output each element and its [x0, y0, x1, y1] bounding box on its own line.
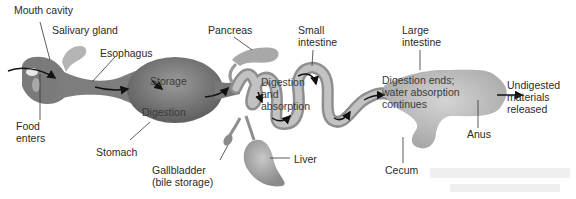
digestive-tract-diagram: Mouth cavity Salivary gland Esophagus Fo… [0, 0, 576, 199]
label-food-enters: Food enters [16, 120, 45, 144]
label-mouth-cavity: Mouth cavity [14, 4, 73, 16]
bleed-through-text [430, 168, 570, 192]
label-gallbladder: Gallbladder (bile storage) [152, 164, 213, 188]
label-esophagus: Esophagus [100, 47, 153, 59]
stage-storage: Storage [150, 75, 187, 87]
label-pancreas: Pancreas [208, 24, 252, 36]
stage-digestion: Digestion [142, 106, 186, 118]
label-salivary-gland: Salivary gland [52, 24, 118, 36]
label-cecum: Cecum [385, 164, 418, 176]
liver-shape [244, 140, 285, 187]
label-anus: Anus [467, 128, 491, 140]
label-small-intestine: Small intestine [298, 24, 337, 48]
label-stomach: Stomach [96, 146, 137, 158]
label-liver: Liver [294, 153, 317, 165]
stage-digestion-ends: Digestion ends; water absorption continu… [382, 74, 460, 110]
stage-digestion-absorption: Digestion and absorption [261, 76, 310, 112]
label-undigested-materials: Undigested materials released [507, 79, 560, 115]
pancreas-shape [232, 48, 279, 67]
label-large-intestine: Large intestine [402, 24, 441, 48]
salivary-gland-shape [62, 46, 86, 72]
